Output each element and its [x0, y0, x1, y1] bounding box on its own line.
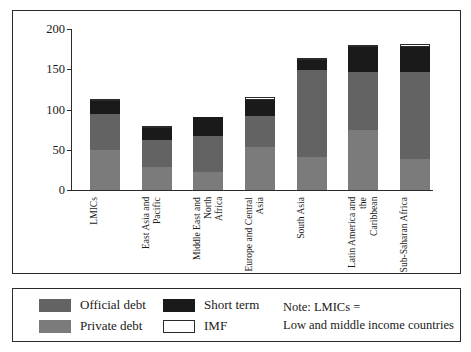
x-axis-label: Latin America and the Caribbean [346, 197, 379, 273]
bar-segment-private-debt [297, 157, 327, 190]
y-tick-label: 200 [31, 23, 65, 36]
x-axis-label: Sub-Saharan Africa [398, 197, 409, 272]
bar [193, 117, 223, 190]
bar [245, 97, 275, 190]
legend-swatch-imf [163, 320, 195, 333]
chart-panel: 050100150200 LMICsEast Asia and PacificM… [12, 10, 461, 274]
legend-item[interactable]: Official debt [39, 297, 146, 313]
bar-segment-private-debt [142, 167, 172, 190]
plot-area: 050100150200 [71, 29, 433, 191]
y-tick-label: 150 [31, 63, 65, 76]
bar-segment-private-debt [348, 130, 378, 190]
bar-segment-short-term [400, 47, 430, 73]
bar [90, 99, 120, 190]
bar [297, 58, 327, 190]
legend-swatch-short [163, 299, 195, 312]
y-tick-mark [67, 110, 72, 111]
chart-root: 050100150200 LMICsEast Asia and PacificM… [0, 0, 471, 352]
bar-segment-short-term [90, 101, 120, 114]
bar-segment-official-debt [245, 116, 275, 147]
legend-swatch-official [39, 299, 71, 312]
bar-segment-private-debt [90, 150, 120, 190]
bar-segment-official-debt [142, 140, 172, 167]
legend-label: Short term [204, 297, 259, 313]
legend-label: Official debt [80, 297, 146, 313]
y-tick-label: 50 [31, 144, 65, 157]
legend-item[interactable]: Private debt [39, 318, 142, 334]
bar-segment-short-term [297, 60, 327, 70]
y-tick-mark [67, 190, 72, 191]
bar-segment-short-term [245, 100, 275, 116]
bar [142, 126, 172, 190]
bar-segment-official-debt [193, 136, 223, 172]
x-axis-label: South Asia [295, 197, 306, 239]
y-tick-mark [67, 29, 72, 30]
y-tick-label: 100 [31, 103, 65, 116]
legend-swatch-private [39, 320, 71, 333]
x-axis-line [71, 190, 433, 191]
bar-segment-short-term [348, 47, 378, 73]
bar-segment-official-debt [90, 114, 120, 149]
bar [400, 44, 430, 190]
bar-segment-private-debt [193, 172, 223, 190]
bar-segment-private-debt [400, 159, 430, 190]
bar-segment-official-debt [297, 70, 327, 157]
y-tick-label: 0 [31, 184, 65, 197]
bar [348, 45, 378, 190]
bar-segment-short-term [142, 128, 172, 140]
bar-segment-official-debt [348, 72, 378, 129]
bar-segment-private-debt [245, 147, 275, 190]
legend-label: Private debt [80, 318, 142, 334]
x-axis-label: LMICs [88, 197, 99, 225]
legend-item[interactable]: IMF [163, 318, 227, 334]
bar-segment-short-term [193, 117, 223, 136]
legend: Official debtShort termPrivate debtIMF N… [13, 289, 460, 341]
x-axis-label: Middle East and North Africa [191, 197, 224, 273]
y-tick-mark [67, 150, 72, 151]
legend-label: IMF [204, 318, 227, 334]
legend-panel: Official debtShort termPrivate debtIMF N… [12, 288, 461, 342]
x-axis-label: Europe and Central Asia [243, 197, 265, 272]
chart-note: Note: LMICs = Low and middle income coun… [283, 298, 454, 334]
legend-item[interactable]: Short term [163, 297, 259, 313]
x-axis-label: East Asia and Pacific [140, 197, 162, 273]
y-tick-mark [67, 69, 72, 70]
bar-segment-official-debt [400, 72, 430, 159]
